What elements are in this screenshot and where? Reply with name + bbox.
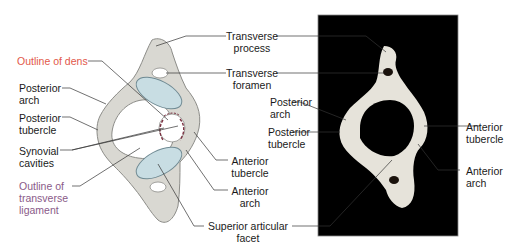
label-line: tubercle xyxy=(228,167,272,179)
label-line: arch xyxy=(466,177,503,189)
label-transverse-foramen: Transverse foramen xyxy=(226,67,278,91)
atlas-illustration xyxy=(97,39,200,223)
label-line: arch xyxy=(19,94,61,106)
label-line: Anterior xyxy=(466,165,503,177)
label-anterior-arch-photo: Anterior arch xyxy=(466,165,503,189)
label-anterior-tubercle-photo: Anterior tubercle xyxy=(466,121,503,145)
label-line: facet xyxy=(204,232,292,244)
label-superior-articular-facet: Superior articular facet xyxy=(204,220,292,244)
label-line: Anterior xyxy=(228,185,272,197)
transverse-foramen-top xyxy=(152,68,168,78)
transverse-foramen-bottom xyxy=(150,182,166,192)
label-line: Posterior xyxy=(19,112,61,124)
label-line: Transverse xyxy=(226,30,278,42)
label-line: Outline of xyxy=(19,180,68,192)
label-posterior-tubercle-photo: Posterior tubercle xyxy=(268,126,310,150)
label-outline-of-dens: Outline of dens xyxy=(17,55,88,67)
label-anterior-tubercle-illustration: Anterior tubercle xyxy=(228,155,272,179)
label-line: cavities xyxy=(19,157,59,169)
photo-transverse-foramen-bottom xyxy=(389,176,399,184)
label-line: tubercle xyxy=(268,138,310,150)
label-line: arch xyxy=(270,108,312,120)
label-line: foramen xyxy=(226,79,278,91)
atlas-figure: Outline of dens Posterior arch Posterior… xyxy=(0,0,517,250)
label-posterior-arch-illustration: Posterior arch xyxy=(19,82,61,106)
label-posterior-arch-photo: Posterior arch xyxy=(270,96,312,120)
label-text: Outline of dens xyxy=(17,55,88,67)
label-line: Anterior xyxy=(466,121,503,133)
label-outline-of-transverse-ligament: Outline of transverse ligament xyxy=(19,180,68,216)
label-line: tubercle xyxy=(466,133,503,145)
label-line: Synovial xyxy=(19,145,59,157)
label-line: Posterior xyxy=(270,96,312,108)
label-line: arch xyxy=(228,197,272,209)
label-synovial-cavities: Synovial cavities xyxy=(19,145,59,169)
label-line: Anterior xyxy=(228,155,272,167)
label-line: Superior articular xyxy=(204,220,292,232)
label-posterior-tubercle-illustration: Posterior tubercle xyxy=(19,112,61,136)
atlas-photograph xyxy=(318,15,458,236)
photo-transverse-foramen-top xyxy=(383,68,393,76)
label-line: ligament xyxy=(19,204,68,216)
label-transverse-process: Transverse process xyxy=(226,30,278,54)
label-line: Posterior xyxy=(19,82,61,94)
label-line: transverse xyxy=(19,192,68,204)
label-line: Transverse xyxy=(226,67,278,79)
label-anterior-arch-illustration: Anterior arch xyxy=(228,185,272,209)
photo-foramen xyxy=(360,100,414,156)
label-line: process xyxy=(226,42,278,54)
label-line: tubercle xyxy=(19,124,61,136)
label-line: Posterior xyxy=(268,126,310,138)
